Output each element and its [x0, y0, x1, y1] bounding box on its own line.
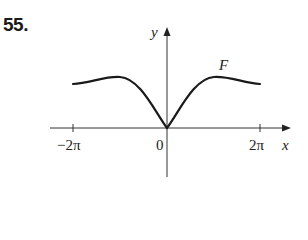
- tick-label-neg-2pi: −2π: [57, 137, 81, 153]
- curve-label: F: [218, 57, 229, 73]
- y-axis-arrow-icon: [164, 27, 171, 36]
- tick-label-zero: 0: [156, 137, 164, 153]
- y-axis-label: y: [149, 24, 158, 40]
- tick-label-pos-2pi: 2π: [249, 137, 265, 153]
- graph: y F −2π 0 2π x: [0, 0, 308, 240]
- x-axis-arrow-icon: [282, 125, 291, 132]
- x-axis-label: x: [281, 137, 289, 153]
